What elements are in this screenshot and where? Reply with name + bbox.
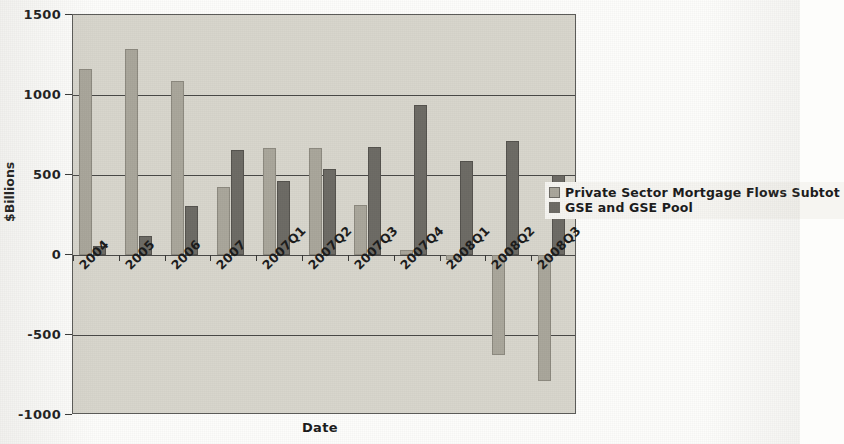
y-axis-tick-label: 0: [52, 247, 61, 262]
plot-area: [72, 14, 576, 414]
bar-private-sector-2005: [125, 49, 138, 255]
bar-private-sector-2006: [171, 81, 184, 255]
x-axis-tick-labels: 20042005200620072007Q12007Q22007Q32007Q4…: [72, 262, 576, 322]
y-axis-tick: [65, 174, 72, 175]
x-axis-tick: [394, 255, 395, 261]
x-axis-tick: [485, 255, 486, 261]
x-axis-tick: [531, 255, 532, 261]
bar-private-sector-2004: [79, 69, 92, 255]
legend-item-private-sector: Private Sector Mortgage Flows Subtot: [549, 185, 840, 200]
bar-private-sector-2007: [217, 187, 230, 255]
x-axis-tick: [256, 255, 257, 261]
y-axis-tick: [65, 414, 72, 415]
bar-private-sector-2007Q2: [309, 148, 322, 255]
x-axis-tick: [210, 255, 211, 261]
x-axis-tick: [165, 255, 166, 261]
y-axis-title: $Billions: [2, 162, 17, 222]
y-axis-tick: [65, 94, 72, 95]
x-axis-tick: [73, 255, 74, 261]
x-axis-tick: [302, 255, 303, 261]
chart-legend: Private Sector Mortgage Flows Subtot GSE…: [545, 182, 844, 219]
y-axis-tick-label: 1500: [24, 7, 61, 22]
y-axis-tick-label: 500: [33, 167, 61, 182]
gridline: [73, 95, 575, 96]
y-axis-tick: [65, 254, 72, 255]
y-axis-tick-label: 1000: [24, 87, 61, 102]
y-axis-tick: [65, 334, 72, 335]
x-axis-title: Date: [0, 420, 640, 435]
legend-swatch-private-sector: [549, 187, 560, 198]
x-axis-tick: [119, 255, 120, 261]
bars-container: [73, 15, 575, 413]
y-axis-tick-label: -500: [27, 327, 61, 342]
x-axis-tick: [348, 255, 349, 261]
legend-label-private-sector: Private Sector Mortgage Flows Subtot: [565, 185, 840, 200]
y-axis-tick: [65, 14, 72, 15]
x-axis-tick: [440, 255, 441, 261]
legend-swatch-gse: [549, 202, 560, 213]
legend-label-gse: GSE and GSE Pool: [565, 200, 693, 215]
legend-item-gse: GSE and GSE Pool: [549, 200, 840, 215]
bar-private-sector-2007Q1: [263, 148, 276, 255]
